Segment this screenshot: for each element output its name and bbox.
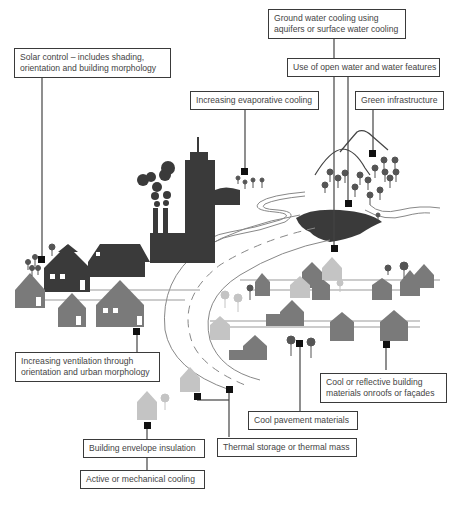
label-cool-reflective: Cool or reflective building materials on… bbox=[320, 373, 447, 403]
label-solar-control: Solar control – includes shading, orient… bbox=[14, 48, 171, 78]
label-active-cooling: Active or mechanical cooling bbox=[80, 470, 205, 489]
label-green-infrastructure: Green infrastructure bbox=[355, 91, 444, 110]
factory-icon bbox=[137, 137, 240, 263]
label-envelope-insulation: Building envelope insulation bbox=[83, 439, 205, 458]
lake bbox=[296, 210, 382, 242]
dark-houses bbox=[44, 244, 150, 292]
label-thermal-storage: Thermal storage or thermal mass bbox=[217, 438, 357, 457]
label-evaporative: Increasing evaporative cooling bbox=[190, 91, 319, 110]
label-cool-pavement: Cool pavement materials bbox=[248, 411, 358, 430]
label-ground-water: Ground water cooling using aquifers or s… bbox=[268, 9, 406, 39]
label-open-water: Use of open water and water features bbox=[287, 58, 440, 77]
label-ventilation: Increasing ventilation through orientati… bbox=[15, 352, 160, 382]
